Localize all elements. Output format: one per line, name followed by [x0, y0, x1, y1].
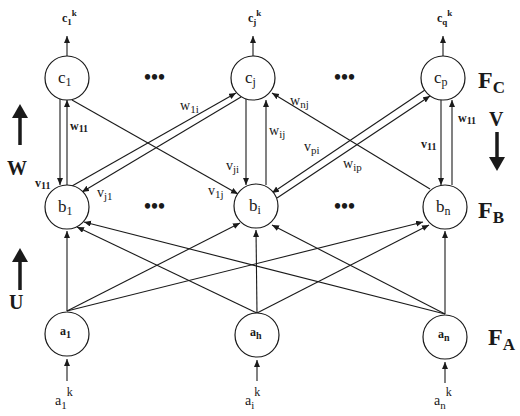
weight-label-w11-right: w11 [458, 111, 476, 126]
input-label-ai: aik [245, 385, 260, 411]
u-matrix-indicator: U [9, 261, 23, 313]
weight-label-v1j: v1j [208, 183, 224, 200]
matrix-label-u: U [9, 291, 23, 313]
output-label-cq: cqk [437, 8, 452, 27]
weight-label-vj1: vj1 [97, 185, 113, 202]
node-a1: a1 [45, 312, 89, 356]
u-connections [67, 222, 445, 314]
matrix-label-w: W [7, 157, 27, 179]
network-diagram: c1 cj cp b1 bi bn a1 ah an ••• ••• ••• •… [0, 0, 520, 416]
v-matrix-indicator: V [489, 108, 504, 158]
output-label-c1: c1k [62, 8, 77, 27]
ellipsis-fc-left: ••• [144, 66, 165, 88]
node-bi: bi [234, 184, 278, 228]
node-ah: ah [235, 313, 279, 357]
weight-label-wip: wip [343, 156, 362, 173]
weight-label-vpi: vpi [304, 139, 320, 156]
input-arrows [67, 359, 445, 383]
weight-label-wij: wij [269, 123, 285, 140]
weight-label-w11-left: w11 [70, 119, 88, 134]
weight-label-v11-left: v11 [35, 176, 50, 191]
output-label-cj: cjk [248, 8, 261, 27]
weight-label-v11-right: v11 [421, 137, 436, 152]
weight-label-w1i: w1i [180, 98, 199, 115]
w-matrix-indicator: W [7, 117, 27, 179]
layer-label-fb: FB [478, 197, 504, 227]
ellipsis-fb-right: ••• [334, 195, 355, 217]
output-arrows [67, 36, 443, 56]
wv-connections [60, 90, 452, 198]
node-c1: c1 [45, 56, 89, 100]
weight-label-vji: vji [226, 158, 239, 175]
input-label-a1: a1k [55, 385, 73, 411]
node-cp: cp [421, 56, 465, 100]
node-an: an [423, 315, 467, 359]
node-bn: bn [423, 185, 467, 229]
matrix-label-v: V [489, 108, 504, 130]
ellipsis-fb-left: ••• [144, 195, 165, 217]
layer-label-fc: FC [478, 67, 505, 97]
node-cj: cj [231, 56, 275, 100]
weight-label-wnj: wnj [290, 93, 309, 110]
input-label-an: ank [434, 385, 452, 411]
ellipsis-fc-right: ••• [334, 66, 355, 88]
layer-label-fa: FA [488, 324, 516, 354]
node-b1: b1 [45, 185, 89, 229]
